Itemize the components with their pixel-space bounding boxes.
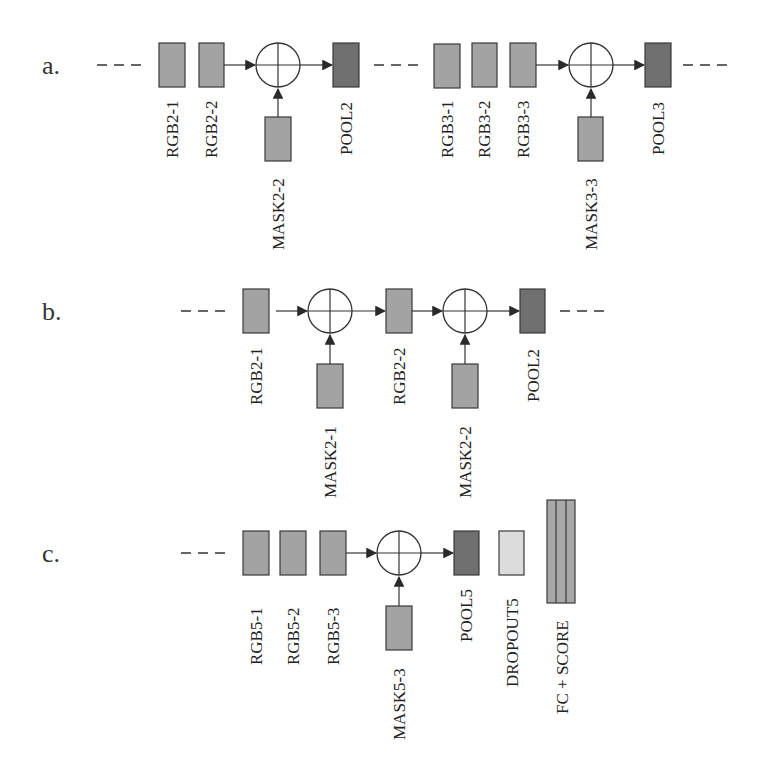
label-fc-score: FC + SCORE xyxy=(553,620,572,714)
sum-node-icon xyxy=(569,43,613,87)
conv-block-rgb3-1 xyxy=(434,44,460,88)
label-pool3: POOL3 xyxy=(649,102,668,155)
conv-block-rgb2-2 xyxy=(199,43,224,87)
mask-block-mask2-1 xyxy=(317,364,343,408)
mask-block-mask5-3 xyxy=(386,606,412,650)
label-mask2-2: MASK2-2 xyxy=(269,178,288,250)
label-rgb2-1: RGB2-1 xyxy=(247,347,266,405)
pool-block-pool5 xyxy=(454,531,479,575)
label-mask3-3: MASK3-3 xyxy=(582,178,601,250)
row-a: a. RGB2-1 RGB2-2 POOL2 xyxy=(42,43,733,250)
conv-block-rgb2-1 xyxy=(243,289,269,333)
conv-block-rgb5-2 xyxy=(280,531,306,575)
pool-block-pool2 xyxy=(333,43,359,87)
label-rgb2-2: RGB2-2 xyxy=(390,347,409,405)
row-b: b. RGB2-1 MASK2-1 RGB2-2 MASK2-2 POOL2 xyxy=(42,289,610,498)
label-rgb3-2: RGB3-2 xyxy=(475,100,494,158)
row-c: c. RGB5-1 RGB5-2 RGB5-3 MASK5-3 POOL5 DR… xyxy=(42,500,575,740)
row-a-label: a. xyxy=(42,51,60,80)
pool-block-pool2 xyxy=(520,289,545,333)
label-pool2: POOL2 xyxy=(337,102,356,155)
sum-node-icon xyxy=(308,289,352,333)
conv-block-rgb3-2 xyxy=(472,43,497,87)
mask-block-mask3-3 xyxy=(578,117,603,161)
label-rgb2-2: RGB2-2 xyxy=(202,100,221,158)
label-mask2-2: MASK2-2 xyxy=(456,426,475,498)
pool-block-pool3 xyxy=(645,43,671,87)
label-rgb3-1: RGB3-1 xyxy=(438,100,457,158)
dropout-block-dropout5 xyxy=(499,531,524,575)
conv-block-rgb3-3 xyxy=(510,43,536,87)
mask-block-mask2-2 xyxy=(265,117,291,161)
sum-node-icon xyxy=(443,289,487,333)
fc-score-block xyxy=(547,500,575,603)
label-rgb3-3: RGB3-3 xyxy=(514,100,533,158)
label-pool2: POOL2 xyxy=(524,349,543,402)
label-pool5: POOL5 xyxy=(457,589,476,642)
network-diagram: a. RGB2-1 RGB2-2 POOL2 xyxy=(0,0,763,769)
row-b-label: b. xyxy=(42,297,62,326)
label-dropout5: DROPOUT5 xyxy=(503,598,522,687)
conv-block-rgb5-3 xyxy=(320,531,346,575)
label-mask5-3: MASK5-3 xyxy=(390,668,409,740)
sum-node-icon xyxy=(256,43,300,87)
sum-node-icon xyxy=(377,531,421,575)
row-c-label: c. xyxy=(42,539,60,568)
conv-block-rgb2-1 xyxy=(159,43,185,87)
label-rgb5-1: RGB5-1 xyxy=(247,607,266,665)
conv-block-rgb2-2 xyxy=(386,289,412,333)
label-rgb5-2: RGB5-2 xyxy=(284,607,303,665)
label-rgb2-1: RGB2-1 xyxy=(163,100,182,158)
label-rgb5-3: RGB5-3 xyxy=(324,607,343,665)
mask-block-mask2-2 xyxy=(452,364,478,408)
label-mask2-1: MASK2-1 xyxy=(321,426,340,498)
conv-block-rgb5-1 xyxy=(243,531,269,575)
